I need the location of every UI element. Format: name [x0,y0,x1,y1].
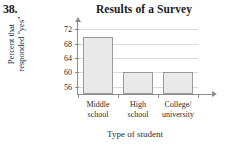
y-axis-tick [75,87,79,88]
x-axis-category-label-line: university [154,110,202,120]
y-axis-title-line2: responded "yes" [16,0,26,88]
y-axis-tick-label: 68 [64,39,72,48]
y-axis-tick-label: 60 [64,68,72,77]
bar [83,37,113,94]
plot-area: 7268646056 MiddleschoolHighschoolCollege… [78,24,198,94]
chart-title: Results of a Survey [62,3,226,15]
y-axis-tick [75,58,79,59]
y-axis-tick-label: 56 [64,82,72,91]
y-axis-tick-label: 64 [64,54,72,63]
x-axis-category-label-line: College/ [154,100,202,110]
y-axis-title: Percent that responded "yes" [6,0,34,88]
y-axis-tick [75,29,79,30]
x-axis-title: Type of student [60,129,210,139]
x-axis-tick [78,94,79,98]
bar [123,72,153,94]
x-axis-tick [198,94,199,98]
bar [163,72,193,94]
y-axis-tick-label: 72 [64,25,72,34]
y-axis-tick [75,44,79,45]
x-axis-line [77,94,213,95]
x-axis-arrow-icon [212,91,217,97]
y-axis-title-line1: Percent that [6,0,16,88]
y-axis-arrow-icon [75,17,81,22]
x-axis-tick [118,94,119,98]
x-axis-category-label: College/university [154,100,202,119]
x-axis-tick [158,94,159,98]
y-axis-tick [75,72,79,73]
gridline [78,29,198,30]
